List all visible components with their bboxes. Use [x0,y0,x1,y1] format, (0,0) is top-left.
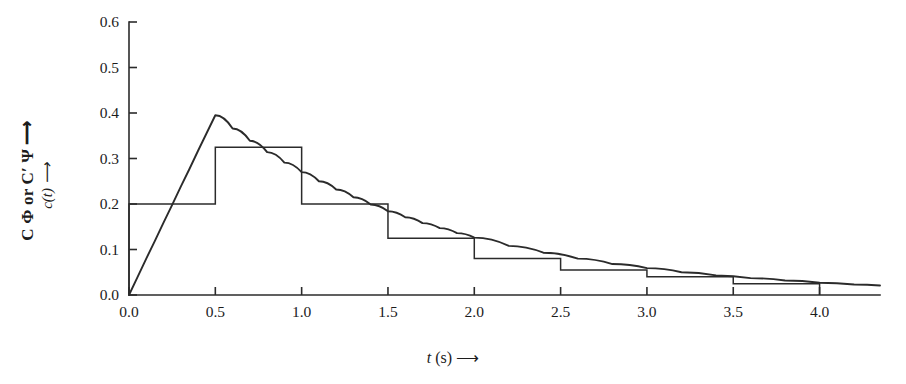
y-tick-label: 0.6 [77,14,119,30]
x-tick-label: 1.0 [277,304,327,320]
x-tick-label: 0.0 [104,304,154,320]
y-tick-label: 0.5 [77,60,119,76]
x-tick-label: 4.0 [795,304,845,320]
x-tick-label: 3.5 [708,304,758,320]
x-axis-ticks [129,287,820,295]
y-tick-label: 0.0 [77,287,119,303]
x-tick-label: 0.5 [190,304,240,320]
x-tick-label: 3.0 [622,304,672,320]
y-axis-ticks [129,22,137,295]
y-tick-label: 0.3 [77,151,119,167]
x-tick-label: 1.5 [363,304,413,320]
axis-spines [129,22,880,295]
y-tick-label: 0.2 [77,196,119,212]
y-tick-label: 0.4 [77,105,119,121]
rtd-chart-figure: C Φ or C′ Ψ ⟶ c(t) ⟶ t (s) ⟶ 0.00.10.20.… [0,0,906,384]
smooth-curve-series [129,115,880,295]
x-tick-label: 2.5 [536,304,586,320]
x-tick-label: 2.0 [449,304,499,320]
step-histogram-series [129,147,820,295]
plot-canvas [0,0,906,384]
y-tick-label: 0.1 [77,242,119,258]
